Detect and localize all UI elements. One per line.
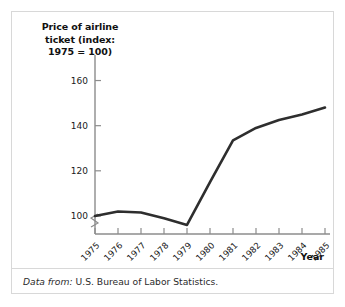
svg-text:140: 140 — [71, 121, 88, 131]
source-note: Data from: U.S. Bureau of Labor Statisti… — [12, 268, 333, 293]
svg-text:120: 120 — [71, 166, 88, 176]
svg-text:1983: 1983 — [263, 240, 286, 263]
figure-panel: Price of airline ticket (index: 1975 = 1… — [11, 11, 334, 294]
svg-text:160: 160 — [71, 76, 88, 86]
svg-text:1980: 1980 — [194, 240, 217, 263]
source-note-lead: Data from: — [23, 276, 73, 287]
source-note-text: U.S. Bureau of Labor Statistics. — [76, 276, 219, 287]
svg-text:1976: 1976 — [102, 240, 125, 263]
line-chart: 100120140160 197519761977197819791980198… — [12, 12, 333, 270]
svg-text:1979: 1979 — [171, 240, 194, 263]
svg-text:100: 100 — [71, 211, 88, 221]
svg-text:1975: 1975 — [79, 240, 102, 263]
svg-text:1981: 1981 — [217, 240, 240, 263]
svg-text:1978: 1978 — [148, 240, 171, 263]
data-series-line — [95, 108, 325, 225]
x-axis: 1975197619771978197919801981198219831984… — [79, 228, 332, 263]
plot-area: 100120140160 197519761977197819791980198… — [12, 12, 333, 270]
y-axis: 100120140160 — [71, 55, 101, 234]
svg-text:1977: 1977 — [125, 240, 148, 263]
svg-text:1982: 1982 — [240, 240, 263, 263]
x-axis-title: Year — [300, 251, 324, 262]
